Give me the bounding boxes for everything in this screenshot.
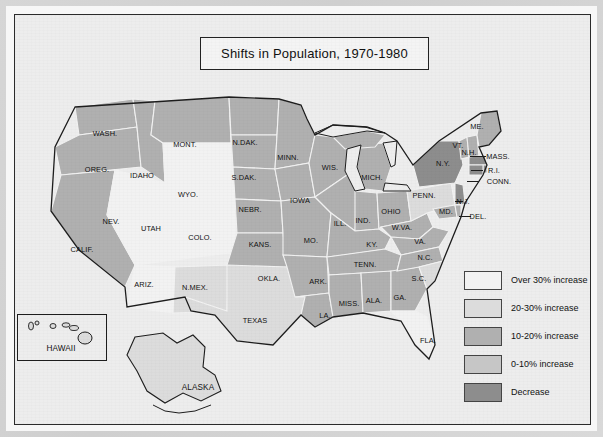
legend-row: 0-10% increase	[464, 353, 588, 375]
state-label-idaho: IDAHO	[130, 171, 154, 180]
state-label-kans: KANS.	[249, 240, 272, 249]
state-label-oreg: OREG.	[85, 165, 109, 174]
legend-swatch	[464, 355, 502, 374]
state-label-ill: ILL.	[334, 219, 347, 228]
state-shape-wyo	[163, 143, 233, 187]
legend-label: Decrease	[511, 387, 550, 397]
state-label-conn: CONN.	[487, 177, 511, 186]
state-label-wva: W.VA.	[392, 223, 412, 232]
leader-line-ri	[471, 170, 483, 171]
legend-swatch	[464, 299, 502, 318]
legend-label: Over 30% increase	[511, 275, 588, 285]
legend-label: 0-10% increase	[511, 359, 574, 369]
map-legend: Over 30% increase20-30% increase10-20% i…	[464, 269, 588, 409]
state-label-nev: NEV.	[103, 217, 120, 226]
legend-swatch	[464, 271, 502, 290]
map-frame: Shifts in Population, 1970-1980 WASH.ORE…	[14, 14, 591, 425]
state-shape-miss	[329, 273, 363, 317]
legend-label: 10-20% increase	[511, 331, 579, 341]
state-label-colo: COLO.	[188, 233, 212, 242]
legend-row: Over 30% increase	[464, 269, 588, 291]
state-label-texas: TEXAS	[243, 316, 268, 325]
state-label-ark: ARK.	[309, 277, 327, 286]
state-label-ga: GA.	[393, 293, 406, 302]
state-label-ky: KY.	[366, 240, 377, 249]
scanned-map-page: Shifts in Population, 1970-1980 WASH.ORE…	[0, 0, 603, 437]
state-shape-ala	[361, 271, 391, 313]
leader-line-conn	[467, 181, 479, 182]
state-label-penn: PENN.	[412, 191, 435, 200]
state-shape-ndak	[229, 97, 279, 135]
state-label-fla: FLA.	[420, 336, 436, 345]
legend-row: 10-20% increase	[464, 325, 588, 347]
state-shape-okla	[227, 233, 287, 269]
legend-label: 20-30% increase	[511, 303, 579, 313]
state-label-wyo: WYO.	[178, 190, 198, 199]
state-label-tenn: TENN.	[354, 260, 377, 269]
legend-row: Decrease	[464, 381, 588, 403]
lake-erie	[383, 183, 411, 191]
state-label-me: ME.	[470, 122, 483, 131]
state-label-nebr: NEBR.	[238, 205, 261, 214]
legend-swatch	[464, 327, 502, 346]
state-label-ndak: N.DAK.	[232, 138, 257, 147]
state-label-nmex: N.MEX.	[182, 283, 208, 292]
map-title-box: Shifts in Population, 1970-1980	[200, 37, 429, 70]
state-label-va: VA.	[414, 237, 426, 246]
state-label-minn: MINN.	[277, 153, 298, 162]
state-label-iowa: IOWA	[290, 196, 310, 205]
state-label-utah: UTAH	[141, 224, 161, 233]
state-label-ariz: ARIZ.	[134, 280, 153, 289]
state-label-mo: MO.	[304, 236, 318, 245]
state-label-la: LA.	[319, 311, 330, 320]
state-label-ohio: OHIO	[381, 207, 400, 216]
state-label-md: MD.	[439, 207, 453, 216]
alaska-shape	[127, 333, 221, 403]
legend-row: 20-30% increase	[464, 297, 588, 319]
state-label-mass: MASS.	[486, 152, 510, 161]
state-label-miss: MISS.	[339, 299, 360, 308]
state-label-nh: N.H.	[461, 148, 476, 157]
state-label-ala: ALA.	[366, 296, 382, 305]
alaska-label: ALASKA	[182, 383, 214, 392]
page-title: Shifts in Population, 1970-1980	[221, 46, 408, 61]
state-label-nj: N.J.	[456, 197, 470, 206]
state-label-ind: IND.	[355, 216, 370, 225]
alaska-aleutians	[153, 405, 211, 413]
state-label-nc: N.C.	[417, 253, 432, 262]
state-shape-mont	[151, 97, 231, 143]
legend-swatch	[464, 383, 502, 402]
state-label-wash: WASH.	[93, 129, 117, 138]
state-label-okla: OKLA.	[258, 274, 280, 283]
hawaii-label: HAWAII	[46, 344, 75, 353]
state-label-del: DEL.	[470, 212, 487, 221]
state-shape-ind	[355, 191, 379, 231]
state-label-wis: WIS.	[322, 163, 338, 172]
state-label-sdak: S.DAK.	[232, 173, 257, 182]
state-label-sc: S.C.	[412, 274, 427, 283]
state-label-ny: N.Y.	[436, 159, 450, 168]
state-label-mont: MONT.	[173, 140, 197, 149]
state-label-mich: MICH.	[361, 173, 382, 182]
state-label-calif: CALIF.	[71, 245, 94, 254]
state-label-ri: R.I.	[488, 166, 500, 175]
